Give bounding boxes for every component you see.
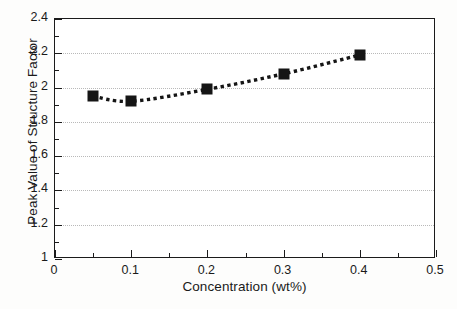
x-axis-title: Concentration (wt%) <box>54 279 435 294</box>
x-tick-label: 0.3 <box>260 263 306 277</box>
y-tick-label: 2.4 <box>2 10 48 24</box>
chart-figure: Peak Value of Structure Factor 11.21.41.… <box>0 0 457 309</box>
plot-area <box>54 18 435 258</box>
data-point-marker <box>202 84 213 95</box>
y-tick-label: 1.4 <box>2 181 48 195</box>
y-tick-major <box>55 259 62 260</box>
data-point-marker <box>88 91 99 102</box>
data-point-marker <box>278 68 289 79</box>
data-point-marker <box>126 96 137 107</box>
x-tick-label: 0.2 <box>183 263 229 277</box>
x-tick-label: 0.1 <box>107 263 153 277</box>
x-tick-label: 0.5 <box>412 263 457 277</box>
y-tick-label: 2.2 <box>2 44 48 58</box>
x-tick-major <box>436 250 437 257</box>
y-tick-label: 1 <box>2 250 48 264</box>
y-tick-label: 1.6 <box>2 147 48 161</box>
series-path <box>93 55 360 101</box>
y-tick-label: 2 <box>2 79 48 93</box>
x-tick-label: 0.4 <box>336 263 382 277</box>
y-tick-label: 1.8 <box>2 113 48 127</box>
data-point-marker <box>354 50 365 61</box>
series-line <box>55 19 436 259</box>
y-tick-label: 1.2 <box>2 216 48 230</box>
x-tick-label: 0 <box>31 263 77 277</box>
